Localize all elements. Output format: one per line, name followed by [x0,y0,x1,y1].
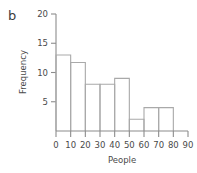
histogram-bar [115,78,130,131]
panel-label: b [8,8,16,23]
histogram-bar [159,108,174,131]
histogram-plot: 5101520 0102030405060708090 People Frequ… [0,0,197,173]
histogram-bars [56,55,173,131]
y-axis-tick-marks [51,14,56,102]
histogram-figure: b 5101520 0102030405060708090 People Fre… [0,0,197,173]
x-axis-tick-labels: 0102030405060708090 [53,140,193,150]
y-axis-tick-labels: 5101520 [37,9,48,107]
x-axis-title: People [108,155,136,165]
x-tick-label: 60 [139,140,150,150]
x-tick-label: 30 [95,140,106,150]
x-axis-tick-marks [56,131,188,137]
histogram-bar [129,119,144,131]
histogram-bar [71,63,86,131]
x-tick-label: 20 [80,140,91,150]
x-tick-label: 10 [65,140,76,150]
y-tick-label: 10 [37,68,48,78]
y-tick-label: 5 [43,97,48,107]
y-tick-label: 20 [37,9,48,19]
x-tick-label: 90 [183,140,194,150]
x-tick-label: 50 [124,140,135,150]
histogram-bar [85,84,100,131]
y-tick-label: 15 [37,38,48,48]
y-axis-title: Frequency [18,50,28,94]
x-tick-label: 70 [153,140,164,150]
x-tick-label: 80 [168,140,179,150]
histogram-bar [100,84,115,131]
histogram-bar [56,55,71,131]
x-tick-label: 0 [53,140,58,150]
histogram-bar [144,108,159,131]
x-tick-label: 40 [109,140,120,150]
